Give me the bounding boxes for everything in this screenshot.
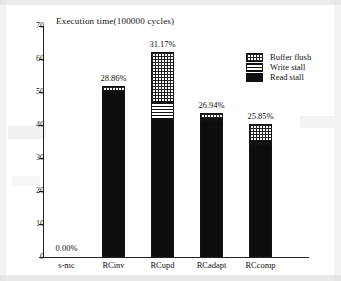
y-axis-tick-label: 70: [22, 22, 44, 30]
scan-artifact-bottom: [0, 275, 341, 281]
bar-group-rcinv[interactable]: 28.86% RCinv: [102, 86, 125, 257]
crosshatch-swatch-icon: [246, 53, 263, 62]
bar-segment-buffer-flush: [200, 113, 223, 119]
x-axis-category-label: RCcomp: [232, 261, 289, 270]
bar-group-rcupd[interactable]: 31.17% RCupd: [151, 52, 174, 257]
bar-segment-write-stall: [151, 102, 174, 119]
scan-smudge: [12, 176, 40, 186]
y-axis-title: Execution time(100000 cycles): [56, 16, 174, 26]
bar-annotation: 26.94%: [189, 101, 234, 110]
y-axis-tick-label: 60: [22, 55, 44, 63]
bar-annotation: 0.00%: [44, 244, 89, 253]
bar-annotation: 28.86%: [91, 74, 136, 83]
y-axis-tick-label: 10: [22, 220, 44, 228]
bar-segment-read-stall: [102, 94, 125, 257]
y-axis-tick-label: 0: [22, 253, 44, 261]
solid-black-swatch-icon: [246, 73, 263, 82]
y-axis-tick-label: 20: [22, 187, 44, 195]
legend-label: Read stall: [270, 72, 304, 82]
legend-item-write-stall: Write stall: [246, 62, 336, 72]
bar-segment-read-stall: [200, 121, 223, 257]
bar-segment-buffer-flush: [249, 124, 272, 141]
legend-label: Write stall: [270, 62, 305, 72]
bar-segment-read-stall: [249, 144, 272, 257]
bar-annotation: 25.85%: [238, 112, 283, 121]
scan-artifact-left: [0, 0, 6, 281]
horizontal-lines-swatch-icon: [246, 63, 263, 72]
bar-segment-read-stall: [151, 119, 174, 257]
legend-item-read-stall: Read stall: [246, 72, 336, 82]
bar-segment-write-stall: [249, 141, 272, 144]
legend-label: Buffer flush: [270, 52, 311, 62]
bar-segment-write-stall: [102, 91, 125, 94]
y-axis-tick-label: 40: [22, 121, 44, 129]
bar-annotation: 31.17%: [140, 40, 185, 49]
scan-smudge: [300, 116, 334, 128]
scan-artifact-right: [334, 0, 341, 281]
bar-segment-buffer-flush: [151, 52, 174, 102]
bar-group-rcadapt[interactable]: 26.94% RCadapt: [200, 113, 223, 257]
y-axis-tick-label: 30: [22, 154, 44, 162]
legend-item-buffer-flush: Buffer flush: [246, 52, 336, 62]
x-axis-line: [43, 257, 309, 258]
bar-group-rccomp[interactable]: 25.85% RCcomp: [249, 124, 272, 257]
y-axis-tick-label: 50: [22, 88, 44, 96]
chart-figure: Execution time(100000 cycles) 70 60 50 4…: [0, 0, 341, 281]
bar-segment-write-stall: [200, 119, 223, 121]
bar-segment-buffer-flush: [102, 86, 125, 91]
scan-artifact-top: [0, 0, 341, 5]
chart-legend: Buffer flush Write stall Read stall: [246, 52, 336, 82]
